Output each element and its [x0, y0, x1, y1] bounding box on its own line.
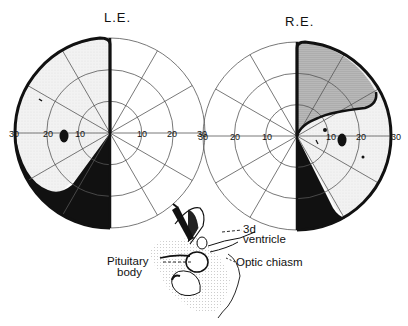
tick-30-right: 30	[391, 132, 401, 142]
tick-10-left: 10	[262, 132, 272, 142]
pituitary-body-label-2: body	[117, 266, 142, 278]
left-eye-field: L.E. 30 20 10 10 20 3	[9, 10, 207, 228]
right-eye-blind-spot	[338, 134, 347, 147]
pituitary-anatomy-sketch: 3d ventricle Pituitary body Optic chiasm	[107, 204, 302, 318]
tick-30-left: 30	[198, 132, 208, 142]
left-eye-blind-spot	[60, 130, 69, 143]
tick-20-right: 20	[167, 129, 177, 139]
tick-20-left: 20	[43, 129, 53, 139]
optic-chiasm-label: Optic chiasm	[236, 256, 302, 268]
right-eye-title: R.E.	[285, 14, 314, 29]
tick-10-right: 10	[326, 132, 336, 142]
third-ventricle-label-2: ventricle	[243, 233, 286, 245]
tick-20-right: 20	[356, 132, 366, 142]
visual-field-diagram: L.E. 30 20 10 10 20 3	[0, 0, 408, 326]
tick-10-right: 10	[137, 129, 147, 139]
tick-10-left: 10	[75, 129, 85, 139]
left-eye-title: L.E.	[104, 10, 131, 25]
right-eye-field: R.E. 30 20 10	[198, 14, 401, 230]
tick-20-left: 20	[230, 132, 240, 142]
tick-30-left: 30	[9, 129, 19, 139]
